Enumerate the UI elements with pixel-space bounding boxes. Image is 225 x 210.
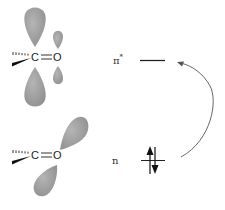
wedge-bond	[12, 156, 31, 165]
carbon-p-lobe-bottom	[24, 67, 45, 107]
carbon-atom: C	[31, 51, 39, 63]
carbon-atom: C	[31, 149, 39, 161]
pi-star-label: π*	[113, 53, 124, 66]
oxygen-atom: O	[53, 51, 62, 63]
pi-star-level: π*	[113, 53, 165, 66]
oxygen-n-lobe-lower	[34, 165, 58, 196]
oxygen-atom: O	[53, 149, 62, 161]
transition-arrow	[177, 62, 213, 158]
double-bond	[41, 55, 52, 59]
oxygen-p-lobe-bottom	[53, 66, 63, 84]
upper-carbonyl: C O	[12, 8, 63, 107]
hashed-bond	[13, 52, 28, 56]
lower-carbonyl: C O	[12, 117, 88, 197]
n-level: n	[112, 146, 165, 174]
arrowhead-icon	[177, 62, 184, 67]
oxygen-p-lobe-top	[53, 31, 63, 49]
oxygen-n-lobe-upper	[60, 117, 88, 150]
carbon-p-lobe-top	[24, 8, 45, 48]
n-label: n	[112, 155, 119, 166]
hashed-bond	[13, 150, 28, 154]
wedge-bond	[12, 58, 31, 67]
n-to-pi-star-diagram: C O C O π*	[0, 0, 225, 210]
double-bond	[41, 153, 52, 157]
